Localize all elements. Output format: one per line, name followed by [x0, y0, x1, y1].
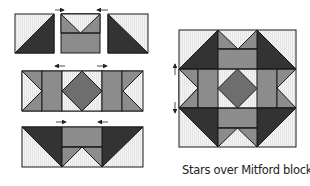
bottom-row: [22, 122, 143, 167]
block-caption: Stars over Mitford block: [182, 163, 310, 177]
rect-center: [62, 127, 102, 147]
rect-right: [102, 71, 122, 111]
middle-row: [22, 66, 143, 111]
rect-left: [42, 71, 62, 111]
quilt-diagram: [0, 0, 310, 186]
top-row: [15, 10, 148, 53]
hst-right: [108, 14, 148, 53]
finished-block: [175, 30, 296, 147]
flying-geese-unit: [61, 14, 100, 53]
hst-left: [15, 14, 54, 53]
